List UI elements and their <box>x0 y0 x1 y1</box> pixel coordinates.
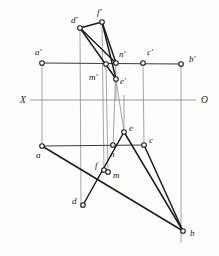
projector-c <box>143 63 144 145</box>
projector-lines-group <box>42 22 181 243</box>
point-label-a: a <box>36 150 41 160</box>
orthographic-projection-figure: a'b'c'd'e'f'm'n'abcdefmn X O <box>0 0 219 256</box>
axis-label-x: X <box>19 95 27 105</box>
point-label-d: d <box>72 196 77 206</box>
point-marker-d-prime[interactable] <box>78 26 83 31</box>
point-label-a-prime: a' <box>35 47 43 57</box>
point-label-m-prime: m' <box>89 72 98 82</box>
point-label-b: b <box>190 228 195 238</box>
point-marker-e[interactable] <box>122 130 127 135</box>
point-label-m: m <box>113 170 120 180</box>
point-label-n: n <box>110 149 115 159</box>
point-label-c: c <box>149 135 153 145</box>
point-marker-e-prime[interactable] <box>114 77 119 82</box>
seg-c-b <box>144 145 183 231</box>
point-marker-f-prime[interactable] <box>100 20 105 25</box>
point-label-f-prime: f' <box>97 7 103 17</box>
seg-e-b <box>124 132 183 231</box>
point-marker-m-prime[interactable] <box>104 62 109 67</box>
seg-d-prime-e-prime <box>80 28 116 79</box>
point-label-f: f <box>95 160 99 170</box>
frame-lines-group <box>42 63 181 146</box>
projector-m <box>106 64 108 174</box>
line-a-c <box>42 145 144 146</box>
seg-d-prime-f-prime <box>80 22 102 28</box>
axis-label-o: O <box>201 95 208 105</box>
point-label-e-prime: e' <box>120 76 127 86</box>
point-labels-group: a'b'c'd'e'f'm'n'abcdefmn <box>35 7 197 238</box>
point-label-n-prime: n' <box>119 49 127 59</box>
point-marker-a[interactable] <box>40 144 45 149</box>
point-marker-a-prime[interactable] <box>40 61 45 66</box>
point-marker-n-prime[interactable] <box>114 61 119 66</box>
point-marker-n[interactable] <box>111 143 116 148</box>
point-marker-b[interactable] <box>181 229 186 234</box>
point-marker-d[interactable] <box>81 203 86 208</box>
technical-drawing-canvas: a'b'c'd'e'f'm'n'abcdefmn X O <box>0 0 219 256</box>
point-marker-c[interactable] <box>142 143 147 148</box>
projector-e <box>116 79 124 132</box>
point-label-c-prime: c' <box>147 47 154 57</box>
point-label-d-prime: d' <box>71 15 79 25</box>
point-marker-m[interactable] <box>106 170 111 175</box>
point-marker-b-prime[interactable] <box>179 62 184 67</box>
projector-d <box>80 28 81 208</box>
projector-f <box>102 22 104 172</box>
point-label-b-prime: b' <box>189 54 197 64</box>
point-label-e: e <box>129 123 133 133</box>
solid-object-edges-group <box>42 22 183 231</box>
point-marker-c-prime[interactable] <box>141 61 146 66</box>
